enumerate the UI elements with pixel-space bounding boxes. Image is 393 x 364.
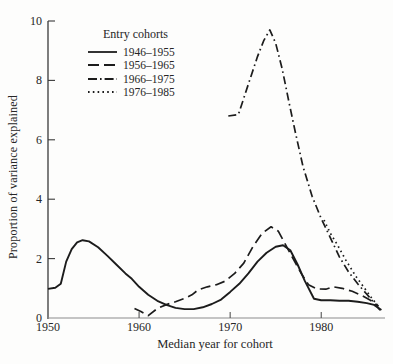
legend-swatch-dotted-line-icon: [88, 87, 118, 97]
legend-swatch-solid-line-icon: [88, 47, 118, 57]
series-line-solid: [48, 240, 381, 310]
legend-swatch-dashdot-line-icon: [88, 74, 118, 84]
series-line-dashed: [135, 227, 379, 316]
legend-label: 1966–1975: [123, 73, 175, 85]
y-tick-label: 2: [36, 252, 42, 266]
series-line-dotted: [324, 220, 378, 305]
plot-area: 02468101950196019701980: [0, 0, 393, 364]
legend-rows: 1946–19551956–19651966–19751976–1985: [88, 45, 175, 99]
legend-label: 1976–1985: [123, 86, 175, 98]
legend-title: Entry cohorts: [103, 27, 175, 42]
legend-label: 1956–1965: [123, 59, 175, 71]
legend-item: 1976–1985: [88, 86, 175, 100]
x-tick-label: 1960: [127, 320, 151, 334]
legend-label: 1946–1955: [123, 46, 175, 58]
cohort-variance-chart: 02468101950196019701980 Proportion of va…: [0, 0, 393, 364]
legend-swatch-dashed-line-icon: [88, 60, 118, 70]
y-tick-label: 6: [36, 133, 42, 147]
legend: Entry cohorts 1946–19551956–19651966–197…: [88, 27, 175, 99]
x-tick-label: 1950: [36, 320, 60, 334]
y-tick-label: 4: [36, 192, 42, 206]
y-tick-label: 10: [30, 14, 42, 28]
legend-item: 1946–1955: [88, 45, 175, 59]
x-axis-title: Median year for cohort: [115, 337, 315, 352]
x-tick-label: 1980: [309, 320, 333, 334]
y-tick-label: 8: [36, 73, 42, 87]
x-tick-label: 1970: [218, 320, 242, 334]
legend-item: 1956–1965: [88, 59, 175, 73]
legend-item: 1966–1975: [88, 72, 175, 86]
y-axis-title: Proportion of variance explained: [6, 87, 22, 267]
